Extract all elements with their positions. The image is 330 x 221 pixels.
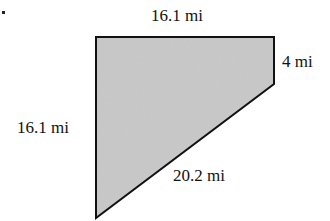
slant-side-label: 20.2 mi — [173, 167, 225, 184]
diagram-canvas — [0, 0, 330, 221]
trapezoid-texture — [96, 37, 274, 218]
bullet-dot — [2, 11, 5, 14]
top-side-label: 16.1 mi — [151, 7, 203, 24]
right-side-label: 4 mi — [282, 53, 313, 70]
left-side-label: 16.1 mi — [17, 119, 69, 136]
